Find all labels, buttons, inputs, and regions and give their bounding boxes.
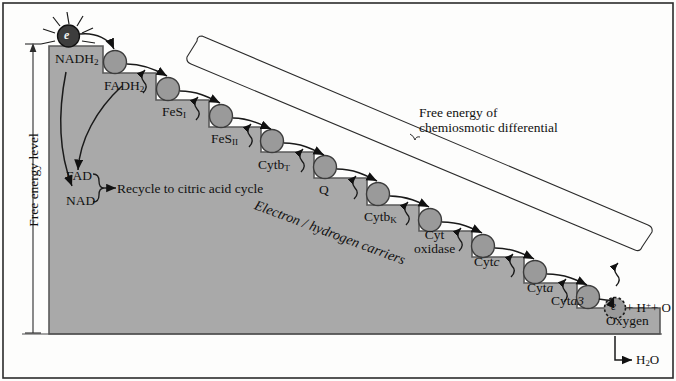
- label-fes1: FeSI: [162, 104, 186, 120]
- label-water: H2O: [636, 352, 659, 368]
- label-fes2: FeSII: [211, 131, 238, 147]
- label-chemiosmotic-differential: Free energy ofchemiosmotic differential: [419, 105, 558, 135]
- axis-label-free-energy-level: Free energy level: [26, 100, 42, 260]
- figure-canvas: e Free energy level NADH2 FADH2 FeSI FeS…: [0, 0, 676, 381]
- label-cyt-c: Cytc: [474, 254, 500, 270]
- carrier-circle-q: [314, 156, 337, 179]
- label-cyt-a: Cyta: [527, 280, 553, 296]
- carrier-circle-fes1: [157, 78, 180, 101]
- label-nad: NAD: [66, 193, 95, 209]
- label-cyt-oxidase: Cytoxidase: [414, 228, 455, 256]
- water-product-arrow: [615, 336, 632, 360]
- carrier-circle-fadh2: [104, 51, 127, 74]
- terminal-electron-glyph: e: [611, 300, 616, 312]
- label-fadh2: FADH2: [104, 78, 144, 94]
- label-q: Q: [319, 182, 329, 198]
- label-oxygen: Oxygen: [606, 313, 649, 329]
- diagram-svg: [0, 0, 676, 381]
- label-cytb-t: CytbT: [258, 157, 290, 173]
- carrier-circle-cytbt: [261, 130, 284, 153]
- label-fad: FAD: [66, 168, 92, 184]
- carrier-circle-cytbk: [367, 183, 390, 206]
- label-cytb-k: CytbK: [364, 209, 397, 225]
- label-cyt-a3: Cyta3: [551, 293, 584, 309]
- label-nadh2: NADH2: [55, 51, 99, 67]
- carrier-circle-fes2: [210, 105, 233, 128]
- label-recycle-to-citric-acid-cycle: Recycle to citric acid cycle: [117, 181, 263, 197]
- electron-glyph: e: [64, 28, 69, 43]
